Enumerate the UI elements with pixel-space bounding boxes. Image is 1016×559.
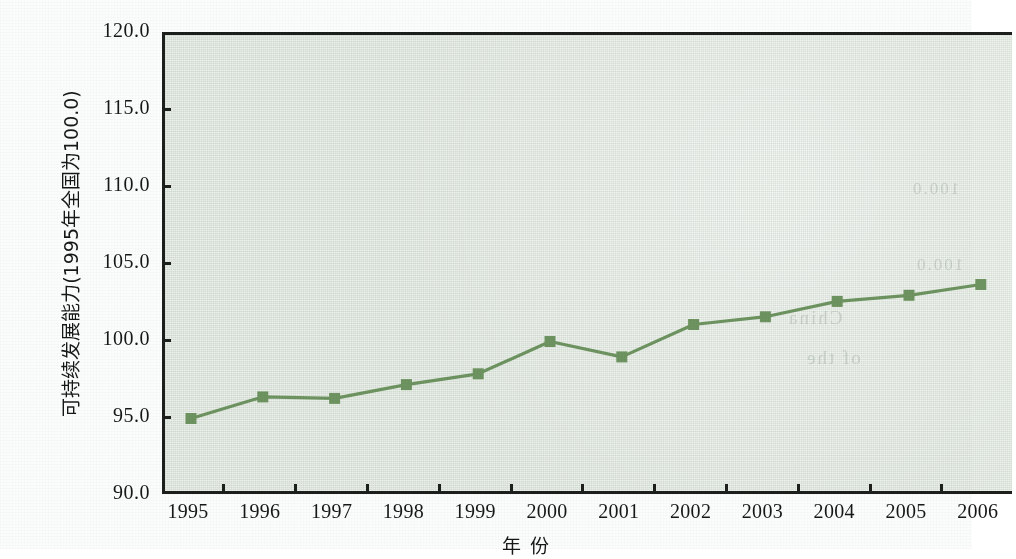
x-axis-title: 年 份	[40, 531, 1012, 558]
data-point-marker	[329, 393, 340, 404]
y-axis-tick-mark	[162, 339, 171, 342]
series-line	[191, 285, 981, 419]
data-point-marker	[904, 290, 915, 301]
x-axis-tick-mark	[581, 484, 584, 493]
data-point-marker	[975, 279, 986, 290]
data-point-marker	[832, 296, 843, 307]
series-markers	[186, 279, 987, 424]
y-axis-tick-mark	[162, 262, 171, 265]
x-axis-tick-label: 2006	[933, 500, 1016, 523]
x-axis-tick-mark	[366, 484, 369, 493]
y-axis-tick-mark	[162, 416, 171, 419]
x-axis-tick-mark	[438, 484, 441, 493]
y-axis-tick-mark	[162, 108, 171, 111]
x-axis-tick-mark	[653, 484, 656, 493]
data-point-marker	[545, 336, 556, 347]
data-point-marker	[257, 391, 268, 402]
y-axis-tick-label: 90.0	[68, 481, 150, 504]
y-axis-title: 可持续发展能力(1995年全国为100.0)	[56, 39, 83, 469]
x-axis-tick-mark	[869, 484, 872, 493]
data-point-marker	[401, 379, 412, 390]
data-point-marker	[688, 319, 699, 330]
sustainable-development-capacity-line-chart: 100.0100.0Chinaof theDataGreen 120.0115.…	[40, 16, 1012, 559]
data-point-marker	[186, 413, 197, 424]
x-axis-tick-mark	[797, 484, 800, 493]
y-axis-tick-mark	[162, 185, 171, 188]
data-point-marker	[616, 351, 627, 362]
data-point-marker	[760, 311, 771, 322]
x-axis-tick-mark	[940, 484, 943, 493]
x-axis-tick-mark	[510, 484, 513, 493]
plot-area: 100.0100.0Chinaof theDataGreen	[162, 32, 1012, 494]
x-axis-tick-mark	[725, 484, 728, 493]
data-point-marker	[473, 368, 484, 379]
x-axis-tick-mark	[222, 484, 225, 493]
series-svg	[165, 35, 1012, 494]
x-axis-tick-mark	[294, 484, 297, 493]
